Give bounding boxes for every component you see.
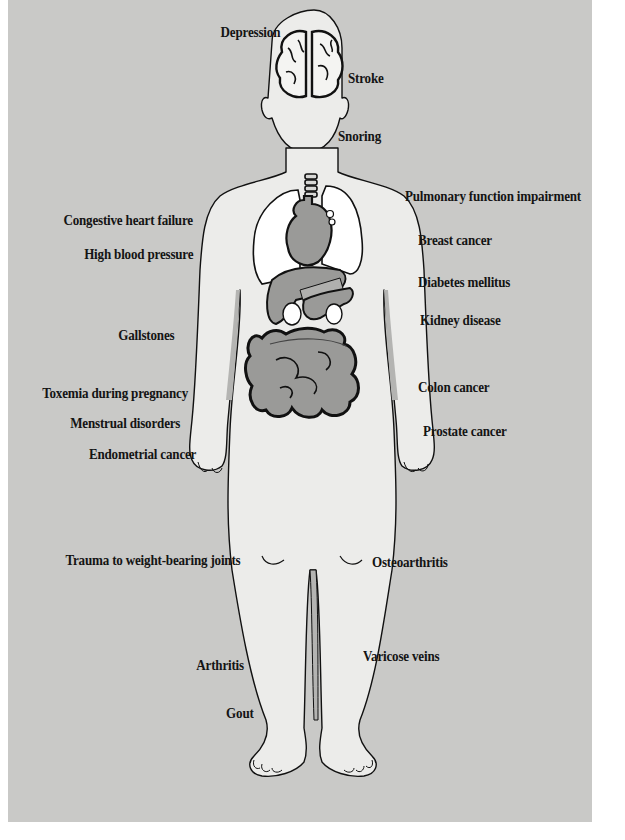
label-toxemia-during-pregnancy: Toxemia during pregnancy (42, 385, 188, 402)
label-stroke: Stroke (348, 70, 384, 87)
label-prostate-cancer: Prostate cancer (423, 423, 507, 440)
label-osteoarthritis: Osteoarthritis (372, 554, 448, 571)
label-kidney-disease: Kidney disease (420, 312, 501, 329)
label-depression: Depression (220, 24, 280, 41)
intestines-icon (246, 328, 359, 417)
label-trauma-weight-bearing-joints: Trauma to weight-bearing joints (66, 552, 241, 569)
label-colon-cancer: Colon cancer (418, 379, 489, 396)
label-arthritis: Arthritis (196, 657, 244, 674)
digestive-organs-icon (267, 267, 353, 325)
trachea-icon (305, 174, 317, 197)
label-varicose-veins: Varicose veins (363, 648, 439, 665)
label-congestive-heart-failure: Congestive heart failure (63, 212, 193, 229)
label-gout: Gout (226, 705, 254, 722)
label-gallstones: Gallstones (118, 327, 174, 344)
label-breast-cancer: Breast cancer (418, 232, 492, 249)
label-endometrial-cancer: Endometrial cancer (89, 446, 196, 463)
label-high-blood-pressure: High blood pressure (84, 246, 193, 263)
label-pulmonary-function-impairment: Pulmonary function impairment (405, 188, 581, 205)
label-diabetes-mellitus: Diabetes mellitus (418, 274, 510, 291)
label-menstrual-disorders: Menstrual disorders (70, 415, 180, 432)
label-snoring: Snoring (338, 128, 381, 145)
